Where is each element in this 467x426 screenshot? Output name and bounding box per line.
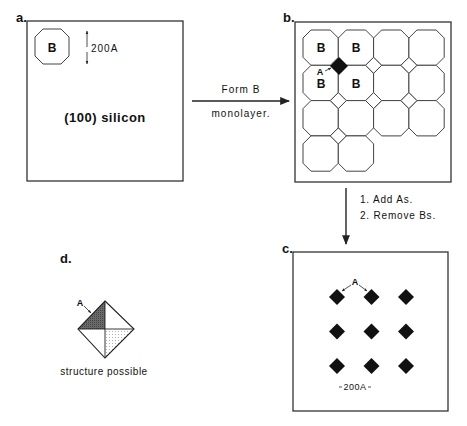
b-octagon-cell: [303, 136, 338, 171]
b-octagon-cell: [374, 65, 409, 100]
d-a-pointer-icon: [84, 306, 91, 313]
step-bc-line1: 1. Add As.: [360, 194, 413, 205]
a-dot: [364, 324, 380, 340]
step-ab-line2: monolayer.: [212, 108, 271, 119]
d-caption: structure possible: [60, 366, 147, 377]
b-label-4: B: [352, 77, 361, 91]
a-dot: [364, 358, 380, 374]
a-dot: [329, 324, 345, 340]
b-octagon-cell: [374, 30, 409, 65]
b-octagon-label: B: [48, 41, 57, 55]
figure-canvas: a. B 200A (100) silicon Form B monolayer…: [0, 0, 467, 426]
a-site-label: A: [317, 67, 324, 77]
panel-d: d. A structure possible: [60, 251, 148, 377]
step-ab-line1: Form B: [222, 84, 261, 95]
a-dot: [398, 358, 414, 374]
a-dot-array: [329, 289, 414, 374]
b-label-1: B: [317, 41, 326, 55]
b-octagon-cell: [409, 65, 444, 100]
a-dot: [364, 289, 380, 305]
panel-c-label: c.: [282, 241, 293, 256]
a-array-label: A: [352, 277, 359, 287]
panel-a: a. B 200A (100) silicon: [16, 10, 183, 181]
step-bc-line2: 2. Remove Bs.: [360, 210, 436, 221]
b-octagon-cell: [338, 101, 373, 136]
substrate-label: (100) silicon: [64, 110, 146, 125]
panel-a-label: a.: [16, 10, 27, 25]
panel-b: b. B B B B A: [283, 10, 451, 182]
b-octagon-cell: [409, 101, 444, 136]
a-dot: [329, 289, 345, 305]
c-scale-label: 200A: [343, 382, 366, 392]
panel-d-label: d.: [60, 251, 72, 266]
a-pointer-right-icon: [359, 285, 367, 291]
a-dot: [398, 289, 414, 305]
b-label-3: B: [317, 77, 326, 91]
step-add-remove: 1. Add As. 2. Remove Bs.: [346, 188, 436, 244]
step-form-monolayer: Form B monolayer.: [192, 84, 289, 119]
panel-c: c. A 200A: [282, 241, 448, 411]
b-octagon-cell: [374, 101, 409, 136]
b-octagon-cell: [409, 30, 444, 65]
b-octagon-cell: [338, 136, 373, 171]
a-pointer-left-icon: [342, 285, 351, 291]
scale-label: 200A: [91, 43, 118, 54]
a-dot: [398, 324, 414, 340]
a-dot: [329, 358, 345, 374]
d-a-label: A: [77, 298, 84, 308]
b-label-2: B: [352, 41, 361, 55]
b-octagon-cell: [303, 101, 338, 136]
panel-b-label: b.: [283, 10, 295, 25]
